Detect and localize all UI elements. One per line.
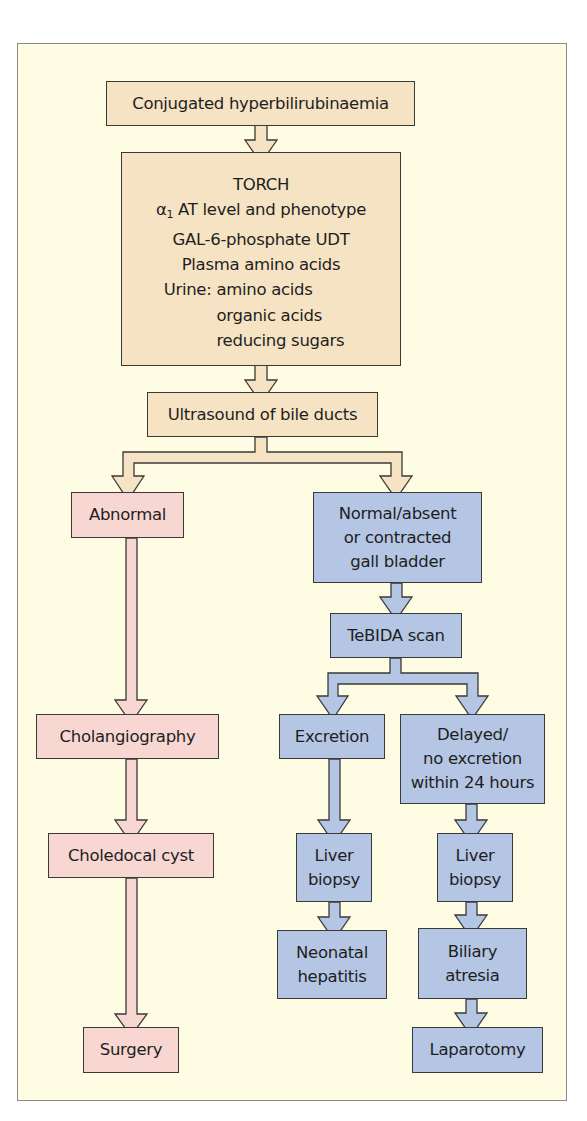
urine-item-organic: organic acids — [216, 303, 344, 329]
node-laparotomy-label: Laparotomy — [430, 1038, 526, 1062]
test-torch: TORCH — [233, 172, 289, 197]
arrow-choledocal-to-surgery — [115, 878, 147, 1036]
node-tests: TORCH α1 AT level and phenotype GAL-6-ph… — [121, 152, 401, 366]
node-normal-line1: Normal/absent — [339, 502, 457, 526]
node-choledocal-cyst: Choledocal cyst — [48, 833, 214, 878]
node-liver-biopsy-1-line1: Liver — [315, 844, 354, 868]
urine-item-amino: amino acids — [216, 277, 344, 303]
node-liver-biopsy-2-line2: biopsy — [449, 868, 501, 892]
node-surgery: Surgery — [83, 1027, 179, 1073]
node-liver-biopsy-2-line1: Liver — [456, 844, 495, 868]
node-laparotomy: Laparotomy — [412, 1027, 543, 1073]
node-liver-biopsy-2: Liver biopsy — [437, 833, 513, 902]
arrow-abnormal-to-cholangiography — [115, 538, 147, 723]
node-excretion-label: Excretion — [295, 725, 369, 749]
node-neonatal-line1: Neonatal — [296, 941, 368, 965]
node-delayed-line2: no excretion — [423, 747, 522, 771]
node-tebida-scan: TeBIDA scan — [330, 613, 462, 658]
node-cholangiography-label: Cholangiography — [60, 725, 196, 749]
node-start: Conjugated hyperbilirubinaemia — [106, 81, 415, 126]
node-abnormal-label: Abnormal — [89, 503, 166, 527]
node-biliary-line2: atresia — [445, 964, 499, 988]
node-surgery-label: Surgery — [100, 1038, 163, 1062]
node-liver-biopsy-1: Liver biopsy — [296, 833, 372, 902]
arrow-ultrasound-split — [112, 437, 412, 500]
node-neonatal-hepatitis: Neonatal hepatitis — [277, 930, 387, 999]
node-ultrasound: Ultrasound of bile ducts — [147, 392, 378, 437]
arrow-tebida-split — [317, 658, 488, 719]
test-gal6: GAL-6-phosphate UDT — [172, 227, 349, 252]
node-delayed-line3: within 24 hours — [411, 771, 534, 795]
node-choledocal-cyst-label: Choledocal cyst — [68, 844, 194, 868]
test-plasma: Plasma amino acids — [182, 252, 341, 277]
node-normal-line2: or contracted — [344, 526, 451, 550]
node-cholangiography: Cholangiography — [36, 714, 219, 759]
alpha-rest: AT level and phenotype — [173, 200, 366, 219]
urine-item-reducing: reducing sugars — [216, 328, 344, 354]
tests-list: TORCH α1 AT level and phenotype GAL-6-ph… — [156, 172, 366, 354]
node-normal-line3: gall bladder — [350, 550, 444, 574]
node-tebida-label: TeBIDA scan — [347, 624, 445, 648]
test-urine: Urine: amino acids Urine: organic acids … — [164, 277, 345, 354]
arrow-excretion-to-biopsy1 — [318, 759, 350, 843]
node-normal-gallbladder: Normal/absent or contracted gall bladder — [313, 492, 482, 583]
node-excretion: Excretion — [279, 714, 385, 759]
node-delayed-excretion: Delayed/ no excretion within 24 hours — [400, 714, 545, 804]
node-start-label: Conjugated hyperbilirubinaemia — [132, 92, 389, 116]
node-neonatal-line2: hepatitis — [297, 965, 366, 989]
node-liver-biopsy-1-line2: biopsy — [308, 868, 360, 892]
node-delayed-line1: Delayed/ — [437, 723, 508, 747]
node-ultrasound-label: Ultrasound of bile ducts — [168, 403, 357, 427]
urine-label: Urine: — [164, 277, 212, 303]
node-biliary-atresia: Biliary atresia — [418, 928, 527, 999]
test-alpha1-at: α1 AT level and phenotype — [156, 197, 366, 227]
alpha-symbol: α — [156, 200, 167, 219]
node-abnormal: Abnormal — [71, 492, 184, 538]
node-biliary-line1: Biliary — [448, 940, 498, 964]
arrow-cholangiography-to-choledocal — [115, 759, 147, 843]
